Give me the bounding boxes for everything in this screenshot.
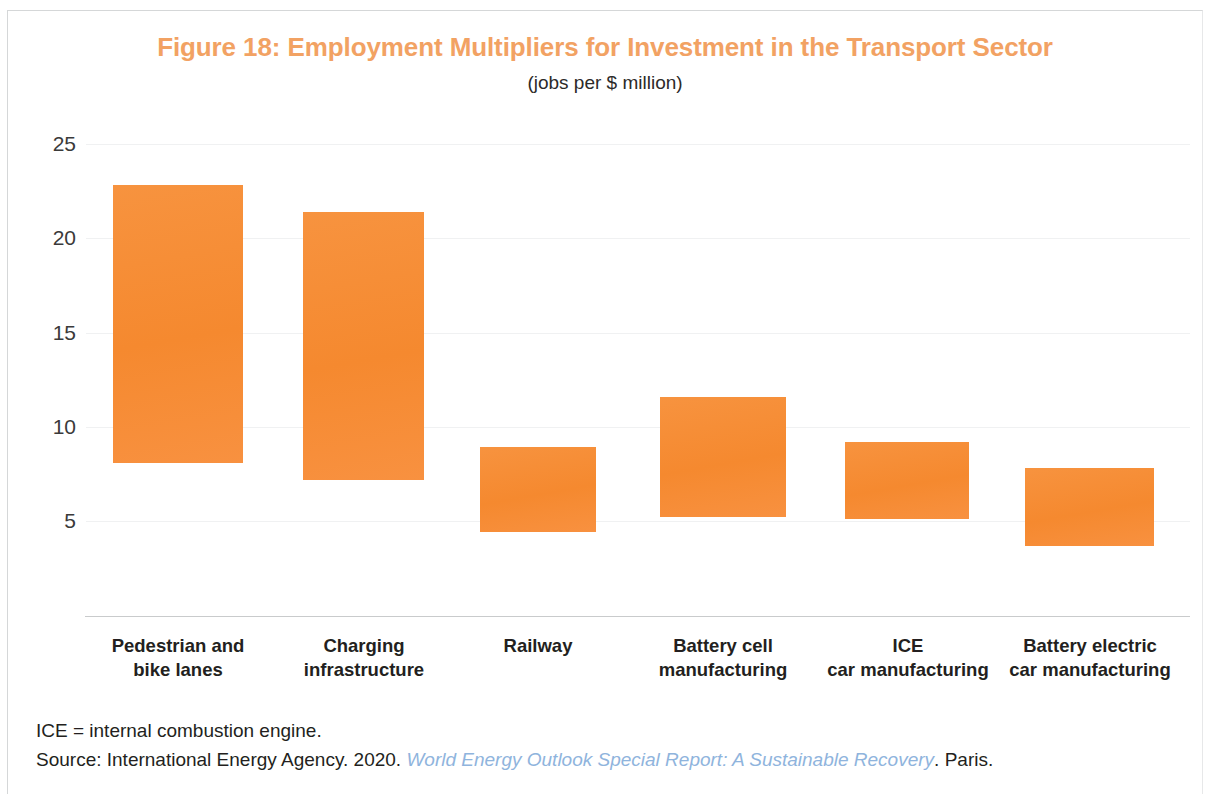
source-suffix: . Paris.: [934, 749, 993, 770]
gridline: [86, 427, 1190, 428]
bar[interactable]: [845, 442, 969, 519]
category-label: ICEcar manufacturing: [812, 634, 1004, 683]
category-label-line: Pedestrian and: [112, 635, 245, 656]
gridline: [86, 333, 1190, 334]
category-label: Battery cellmanufacturing: [628, 634, 818, 683]
abbreviation-note: ICE = internal combustion engine.: [36, 716, 1196, 745]
bar[interactable]: [113, 185, 243, 462]
category-label-line: Battery electric: [1023, 635, 1157, 656]
y-axis-tick-label: 20: [14, 226, 76, 250]
category-label-line: infrastructure: [304, 659, 424, 680]
category-label-line: ICE: [893, 635, 924, 656]
category-label-line: Battery cell: [673, 635, 773, 656]
y-axis-tick-label: 10: [14, 415, 76, 439]
category-label-line: Railway: [504, 635, 573, 656]
y-axis-tick-label: 15: [14, 321, 76, 345]
plot-area: 252015105 Pedestrian andbike lanesChargi…: [0, 0, 1210, 700]
source-title-link[interactable]: World Energy Outlook Special Report: A S…: [406, 749, 934, 770]
bar[interactable]: [480, 447, 596, 532]
bar[interactable]: [303, 212, 424, 480]
category-label-line: bike lanes: [133, 659, 222, 680]
bar[interactable]: [660, 397, 786, 518]
figure-notes: ICE = internal combustion engine. Source…: [36, 716, 1196, 775]
source-prefix: Source: International Energy Agency. 202…: [36, 749, 406, 770]
y-axis-tick-label: 5: [14, 509, 76, 533]
gridline: [86, 144, 1190, 145]
gridline: [86, 238, 1190, 239]
bar[interactable]: [1025, 468, 1154, 545]
figure-container: Figure 18: Employment Multipliers for In…: [0, 0, 1210, 794]
y-axis-tick-label: 25: [14, 132, 76, 156]
source-note: Source: International Energy Agency. 202…: [36, 745, 1196, 774]
category-label: Pedestrian andbike lanes: [73, 634, 283, 683]
x-axis-line: [85, 616, 1190, 617]
category-label-line: Charging: [323, 635, 404, 656]
category-label-line: car manufacturing: [1009, 659, 1170, 680]
category-label-line: manufacturing: [659, 659, 787, 680]
category-label: Charginginfrastructure: [266, 634, 462, 683]
category-label-line: car manufacturing: [827, 659, 988, 680]
category-label: Battery electriccar manufacturing: [984, 634, 1196, 683]
category-label: Railway: [448, 634, 628, 658]
